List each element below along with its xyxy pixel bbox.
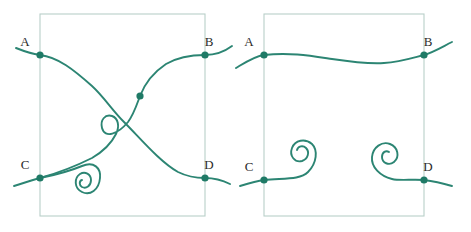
node-point-c (260, 176, 267, 183)
node-point-c (36, 174, 43, 181)
panel-frame (264, 14, 424, 216)
point-label-c: C (245, 159, 254, 174)
point-label-b: B (205, 34, 214, 49)
panel-frame (40, 14, 205, 216)
left-panel: ABCD (14, 14, 232, 216)
strand-C-to-B-with-loop (14, 46, 232, 186)
point-label-d: D (423, 159, 432, 174)
node-point-d (201, 174, 208, 181)
point-label-b: B (424, 34, 433, 49)
diagram-canvas: ABCDABCD (0, 0, 471, 232)
point-label-d: D (204, 157, 213, 172)
node-point-a (36, 51, 43, 58)
strand-A-to-D (16, 48, 230, 184)
point-label-c: C (21, 157, 30, 172)
tangle-diagram-figure: ABCDABCD (0, 0, 471, 232)
node-point-b (201, 51, 208, 58)
strand-A-to-B-wavy (236, 42, 452, 68)
node-point-d (420, 176, 427, 183)
node-point-a (260, 51, 267, 58)
node-point-x (136, 92, 143, 99)
node-point-b (420, 51, 427, 58)
point-label-a: A (244, 34, 254, 49)
point-label-a: A (20, 34, 30, 49)
right-panel: ABCD (236, 14, 452, 216)
spiral-D-right (372, 143, 452, 186)
